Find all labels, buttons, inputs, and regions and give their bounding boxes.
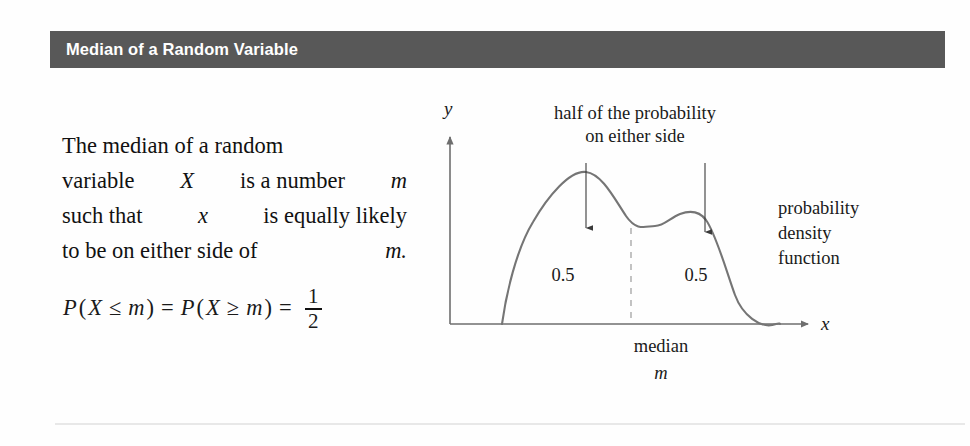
definition-line-2-part-b: is a number	[240, 163, 345, 198]
median-symbol-label: m	[601, 362, 721, 385]
page-canvas: Median of a Random Variable The median o…	[0, 0, 970, 446]
pdf-line-2: density	[778, 221, 859, 246]
pdf-line-3: function	[778, 246, 859, 271]
definition-text-block: The median of a random variable X is a n…	[62, 128, 407, 268]
equation-equals-2: =	[279, 295, 292, 321]
area-label-left: 0.5	[543, 264, 583, 287]
x-axis-label: x	[821, 312, 829, 335]
bottom-divider	[55, 423, 965, 425]
definition-line-3-part-a: such that	[62, 198, 143, 233]
definition-line-2-part-a: variable	[62, 163, 134, 198]
callout-line-2: on either side	[515, 125, 755, 148]
callout-line-1: half of the probability	[515, 102, 755, 125]
y-axis-label: y	[444, 97, 452, 120]
definition-line-4-text: to be on either side of	[62, 233, 258, 268]
variable-x-upper: X	[180, 163, 194, 198]
definition-line-4: to be on either side of m.	[62, 233, 407, 268]
area-label-right: 0.5	[676, 264, 716, 287]
equation-p-1: P	[63, 295, 77, 321]
median-label: median	[601, 335, 721, 358]
variable-x-lower: x	[198, 198, 208, 233]
definition-line-1-text: The median of a random	[62, 128, 283, 163]
equation-paren-open-2: (	[197, 295, 205, 321]
equation-paren-open-1: (	[79, 295, 87, 321]
pdf-annotation: probability density function	[778, 196, 859, 271]
section-header-bar: Median of a Random Variable	[50, 31, 945, 68]
equation-p-2: P	[181, 295, 195, 321]
pdf-line-1: probability	[778, 196, 859, 221]
median-equation: P ( X ≤ m ) = P ( X ≥ m ) = 1 2	[62, 285, 322, 331]
definition-line-2: variable X is a number m	[62, 163, 407, 198]
definition-line-1: The median of a random	[62, 128, 407, 163]
fraction-numerator: 1	[305, 286, 322, 308]
equation-paren-close-2: )	[264, 295, 272, 321]
equation-variable-x-2: X	[206, 295, 220, 321]
equation-less-equal: ≤	[109, 295, 121, 321]
equation-equals-1: =	[161, 295, 174, 321]
equation-variable-m-1: m	[128, 295, 144, 321]
equation-fraction-one-half: 1 2	[305, 286, 322, 332]
equation-paren-close-1: )	[147, 295, 155, 321]
density-figure: y x half of the probability on either si…	[430, 90, 960, 400]
equation-variable-m-2: m	[246, 295, 262, 321]
definition-line-3: such that x is equally likely	[62, 198, 407, 233]
callout-annotation: half of the probability on either side	[515, 102, 755, 148]
definition-line-3-part-b: is equally likely	[263, 198, 407, 233]
page-title: Median of a Random Variable	[66, 40, 298, 59]
variable-m-2: m.	[385, 233, 407, 268]
equation-variable-x-1: X	[88, 295, 102, 321]
equation-greater-equal: ≥	[227, 295, 239, 321]
variable-m-1: m	[391, 163, 407, 198]
fraction-denominator: 2	[305, 310, 322, 332]
probability-density-curve	[502, 172, 780, 325]
